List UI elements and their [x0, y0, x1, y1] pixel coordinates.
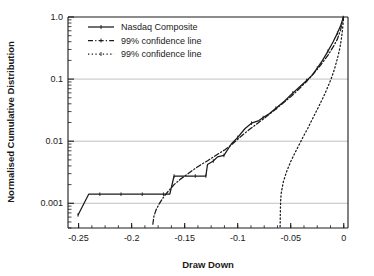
y-tick-label: 0.001: [40, 198, 63, 208]
legend-label-0: Nasdaq Composite: [121, 22, 198, 32]
x-tick-label: -0.2: [124, 233, 140, 243]
y-tick-label: 1.0: [50, 12, 63, 22]
chart-canvas: 1.00.10.010.001 -0.25-0.2-0.15-0.1-0.050…: [0, 0, 374, 276]
x-tick-label: -0.05: [280, 233, 301, 243]
x-tick-label: -0.25: [68, 233, 89, 243]
y-tick-label: 0.01: [45, 136, 63, 146]
legend-label-2: 99% confidence line: [121, 49, 202, 59]
chart-figure: 1.00.10.010.001 -0.25-0.2-0.15-0.1-0.050…: [0, 0, 374, 276]
x-axis-title: Draw Down: [182, 259, 234, 270]
x-tick-label: -0.15: [174, 233, 195, 243]
x-tick-label: -0.1: [230, 233, 246, 243]
legend-label-1: 99% confidence line: [121, 36, 202, 46]
x-tick-label: 0: [341, 233, 346, 243]
y-tick-label: 0.1: [50, 74, 63, 84]
y-axis-title: Normalised Cumulative Distribution: [5, 41, 16, 203]
